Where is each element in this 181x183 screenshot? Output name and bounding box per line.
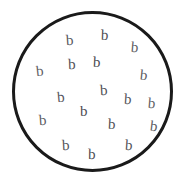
letter-b: b [35,64,44,80]
letter-b: b [68,57,76,72]
letter-b: b [139,68,148,84]
letter-b: b [62,138,70,153]
letter-b: b [88,147,96,162]
letter-b: b [80,104,88,119]
letter-b: b [38,113,47,128]
letter-b: b [147,96,156,112]
letter-b: b [123,92,132,107]
letter-b: b [100,83,108,98]
letter-b: b [130,40,139,56]
letter-b: b [65,33,74,48]
letter-b: b [124,138,133,153]
letter-b: b [108,117,116,132]
letter-b: b [56,90,65,106]
image-canvas: bbbbbbbbbbbbbbbbbb [0,0,181,183]
letter-b: b [101,28,109,43]
letter-b: b [93,55,101,70]
